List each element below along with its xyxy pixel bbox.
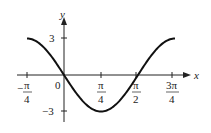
x-axis-label: x bbox=[193, 69, 199, 81]
x-tick-pi-4: π 4 bbox=[97, 79, 106, 105]
svg-text:π: π bbox=[98, 79, 104, 91]
x-tick-3pi-4: 3π 4 bbox=[166, 79, 179, 105]
svg-text:−: − bbox=[17, 82, 23, 94]
x-tick-neg-pi-4: − π 4 bbox=[17, 79, 32, 105]
y-tick-3: 3 bbox=[49, 32, 55, 44]
y-axis-label: y bbox=[59, 8, 65, 20]
x-axis-arrow-icon bbox=[183, 72, 191, 78]
chart: x y 3 −3 0 − π 4 π 4 π 2 3π 4 bbox=[0, 0, 211, 133]
svg-text:3π: 3π bbox=[166, 79, 178, 91]
svg-text:4: 4 bbox=[98, 93, 104, 105]
svg-text:4: 4 bbox=[169, 93, 175, 105]
y-tick-neg3: −3 bbox=[42, 105, 54, 117]
svg-text:4: 4 bbox=[24, 93, 30, 105]
origin-label: 0 bbox=[55, 79, 61, 91]
svg-text:2: 2 bbox=[133, 93, 139, 105]
svg-text:π: π bbox=[24, 79, 30, 91]
